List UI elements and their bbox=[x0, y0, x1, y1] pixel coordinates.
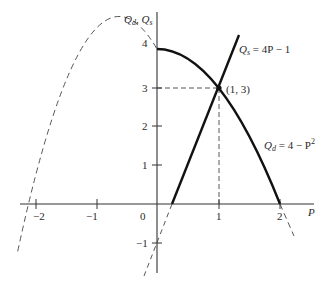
y-tick-neg1: −1 bbox=[136, 237, 148, 249]
equilibrium-point bbox=[216, 85, 221, 90]
x-tick-1: 1 bbox=[216, 210, 222, 222]
x-tick-2: 2 bbox=[277, 210, 283, 222]
supply-line-dashed bbox=[144, 204, 172, 276]
y-axis-label: Qd, Qs bbox=[124, 13, 153, 27]
x-tick-neg2: −2 bbox=[33, 210, 45, 222]
equilibrium-label: (1, 3) bbox=[226, 83, 250, 96]
y-tick-4: 4 bbox=[142, 37, 148, 49]
y-tick-1: 1 bbox=[142, 159, 148, 171]
y-tick-2: 2 bbox=[142, 120, 148, 132]
x-tick-neg1: −1 bbox=[86, 210, 98, 222]
x-axis-label: P bbox=[307, 206, 315, 218]
y-tick-3: 3 bbox=[142, 82, 148, 94]
supply-equation: Qs = 4P − 1 bbox=[239, 43, 290, 57]
supply-line bbox=[172, 35, 239, 204]
demand-curve bbox=[157, 49, 280, 204]
chart-canvas: Qd, Qs P −2 −1 0 1 2 4 3 2 1 −1 (1, 3) Q… bbox=[0, 0, 333, 285]
demand-equation: Qd = 4 − P2 bbox=[264, 137, 315, 153]
origin-label: 0 bbox=[140, 210, 146, 222]
